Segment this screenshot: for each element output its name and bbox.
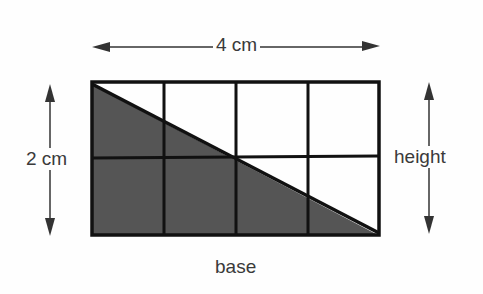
height-label: height bbox=[394, 146, 446, 168]
base-label: base bbox=[215, 256, 256, 278]
width-label: 4 cm bbox=[213, 34, 260, 56]
height-value-label: 2 cm bbox=[26, 148, 67, 170]
